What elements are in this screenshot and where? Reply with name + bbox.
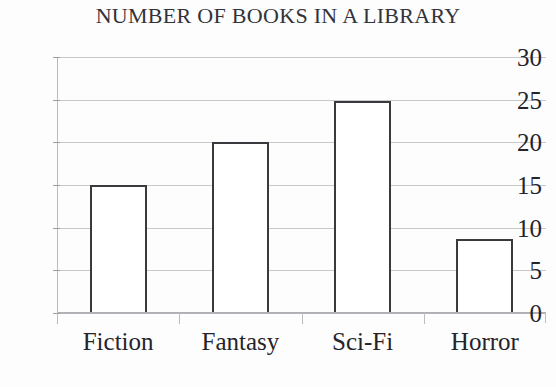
gridline	[57, 57, 546, 58]
plot-area	[57, 57, 546, 313]
gridline	[57, 142, 546, 143]
y-tick-label: 0	[494, 301, 542, 326]
x-tick-label: Fantasy	[179, 329, 301, 354]
y-tick-label: 15	[494, 173, 542, 198]
y-tick-label: 20	[494, 130, 542, 155]
bar-chart-figure: NUMBER OF BOOKS IN A LIBRARY 05101520253…	[0, 0, 556, 387]
y-tick-label: 30	[494, 45, 542, 70]
x-tick-mark	[302, 313, 303, 324]
gridline	[57, 100, 546, 101]
x-tick-mark	[57, 313, 58, 324]
y-tick-label: 25	[494, 88, 542, 113]
bar-fiction	[90, 185, 147, 313]
x-tick-label: Sci-Fi	[302, 329, 424, 354]
y-tick-label: 10	[494, 216, 542, 241]
y-tick-mark	[53, 185, 60, 186]
y-tick-mark	[53, 270, 60, 271]
x-tick-label: Horror	[424, 329, 546, 354]
y-tick-label: 5	[494, 258, 542, 283]
y-tick-mark	[53, 100, 60, 101]
chart-title: NUMBER OF BOOKS IN A LIBRARY	[0, 3, 556, 29]
x-tick-mark	[424, 313, 425, 324]
plot-right-edge	[545, 312, 546, 323]
bar-fantasy	[212, 142, 269, 313]
x-tick-mark	[179, 313, 180, 324]
y-tick-mark	[53, 57, 60, 58]
y-tick-mark	[53, 142, 60, 143]
y-tick-mark	[53, 228, 60, 229]
x-tick-label: Fiction	[57, 329, 179, 354]
bar-sci-fi	[334, 101, 391, 313]
